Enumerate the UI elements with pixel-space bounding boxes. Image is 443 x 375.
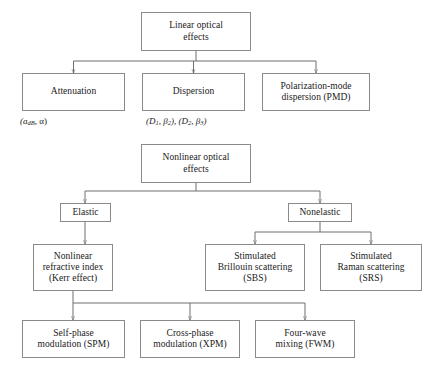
- node-stimulated-raman-scattering: Stimulated Raman scattering (SRS): [320, 244, 422, 291]
- node-line-2: refractive index: [36, 262, 110, 273]
- node-linear-optical-effects: Linear optical effects: [141, 12, 251, 51]
- node-nonlinear-refractive-index: Nonlinear refractive index (Kerr effect): [33, 244, 113, 291]
- node-line-2: Brillouin scattering: [208, 262, 302, 273]
- node-attenuation: Attenuation: [22, 73, 125, 111]
- node-line-2: effects: [144, 32, 248, 43]
- node-nonelastic: Nonelastic: [288, 203, 352, 222]
- annotation-part: (D: [146, 116, 156, 126]
- node-line-3: (Kerr effect): [36, 273, 110, 284]
- node-line-1: Stimulated: [323, 251, 419, 262]
- node-polarization-mode-dispersion: Polarization-mode dispersion (PMD): [262, 73, 370, 111]
- annotation-part: , β: [191, 116, 200, 126]
- node-self-phase-modulation: Self-phase modulation (SPM): [22, 320, 125, 358]
- node-line-1: Cross-phase: [143, 328, 237, 339]
- annotation-part: ): [203, 116, 206, 126]
- node-line-1: Linear optical: [144, 20, 248, 31]
- node-line-2: modulation (XPM): [143, 339, 237, 350]
- node-four-wave-mixing: Four-wave mixing (FWM): [255, 320, 355, 358]
- annotation-part: , α): [35, 116, 47, 126]
- node-line-1: Nonlinear: [36, 251, 110, 262]
- node-line-2: Raman scattering: [323, 262, 419, 273]
- node-line-2: effects: [144, 164, 248, 175]
- node-nonlinear-optical-effects: Nonlinear optical effects: [141, 144, 251, 183]
- annotation-part: (a: [20, 116, 28, 126]
- node-line-3: (SBS): [208, 273, 302, 284]
- node-line-1: Nonelastic: [291, 207, 349, 218]
- annotation-attenuation-parameters: (adB, α): [20, 116, 47, 126]
- node-line-1: Four-wave: [258, 328, 352, 339]
- node-stimulated-brillouin-scattering: Stimulated Brillouin scattering (SBS): [205, 244, 305, 291]
- node-line-3: (SRS): [323, 273, 419, 284]
- node-line-1: Self-phase: [25, 328, 122, 339]
- connector-lines: [0, 0, 443, 375]
- node-line-1: Nonlinear optical: [144, 152, 248, 163]
- node-line-1: Polarization-mode: [265, 81, 367, 92]
- node-line-2: dispersion (PMD): [265, 92, 367, 103]
- node-elastic: Elastic: [60, 203, 111, 222]
- optical-effects-diagram: Linear optical effects Attenuation (adB,…: [0, 0, 443, 375]
- node-line-1: Elastic: [63, 207, 108, 218]
- node-dispersion: Dispersion: [142, 73, 245, 111]
- node-line-2: mixing (FWM): [258, 339, 352, 350]
- annotation-part: ), (D: [171, 116, 188, 126]
- annotation-part: , β: [159, 116, 168, 126]
- node-line-1: Attenuation: [25, 86, 122, 97]
- annotation-subscript: dB: [28, 119, 35, 126]
- node-line-1: Stimulated: [208, 251, 302, 262]
- node-line-1: Dispersion: [145, 86, 242, 97]
- node-line-2: modulation (SPM): [25, 339, 122, 350]
- node-cross-phase-modulation: Cross-phase modulation (XPM): [140, 320, 240, 358]
- annotation-dispersion-parameters: (D1, β2), (D2, β3): [146, 116, 206, 126]
